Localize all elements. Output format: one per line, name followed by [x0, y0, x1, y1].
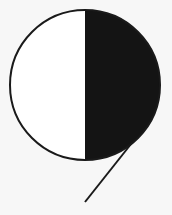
half-moon-symbol — [0, 0, 172, 215]
circle-dark-half — [85, 10, 160, 160]
